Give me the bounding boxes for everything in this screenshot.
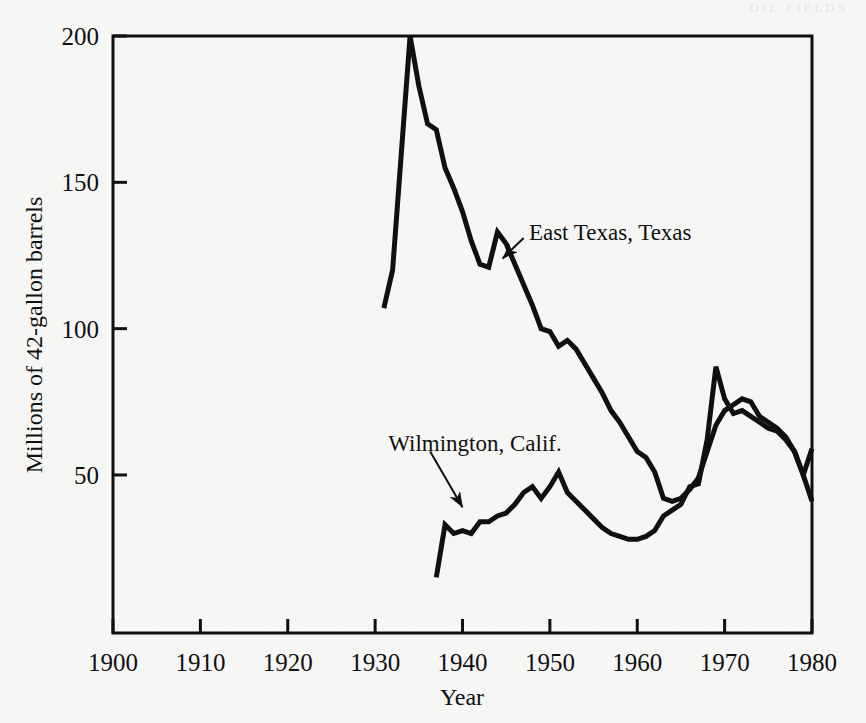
y-tick-label-50: 50 xyxy=(74,462,99,489)
y-axis-ticks xyxy=(113,36,127,475)
x-tick-label-1970: 1970 xyxy=(700,649,750,676)
x-axis-tick-labels: 190019101920193019401950196019701980 xyxy=(88,649,837,676)
x-tick-label-1900: 1900 xyxy=(88,649,138,676)
x-axis-ticks xyxy=(113,619,812,633)
x-tick-label-1920: 1920 xyxy=(263,649,313,676)
y-tick-label-150: 150 xyxy=(62,169,100,196)
plot-frame xyxy=(113,36,812,633)
figure-root: OIL FIELDS 19001910192019301940195019601… xyxy=(0,0,866,723)
series-annotations: East Texas, TexasWilmington, Calif. xyxy=(388,220,691,507)
x-tick-label-1940: 1940 xyxy=(438,649,488,676)
line-chart: 190019101920193019401950196019701980 501… xyxy=(0,0,866,723)
x-tick-label-1980: 1980 xyxy=(787,649,837,676)
x-axis-title: Year xyxy=(440,684,484,710)
series-line-wilmington-calif xyxy=(436,367,812,578)
x-tick-label-1910: 1910 xyxy=(175,649,225,676)
data-series-group xyxy=(384,36,812,577)
x-tick-label-1960: 1960 xyxy=(612,649,662,676)
y-tick-label-200: 200 xyxy=(62,23,100,50)
annotation-arrow-wilmington-calif xyxy=(430,452,462,508)
x-tick-label-1950: 1950 xyxy=(525,649,575,676)
y-axis-title: Millions of 42-gallon barrels xyxy=(21,197,47,474)
annotation-label-wilmington-calif: Wilmington, Calif. xyxy=(388,431,561,456)
x-tick-label-1930: 1930 xyxy=(350,649,400,676)
annotation-label-east-texas-texas: East Texas, Texas xyxy=(529,220,692,245)
y-axis-tick-labels: 50100150200 xyxy=(62,23,100,489)
y-tick-label-100: 100 xyxy=(62,316,100,343)
